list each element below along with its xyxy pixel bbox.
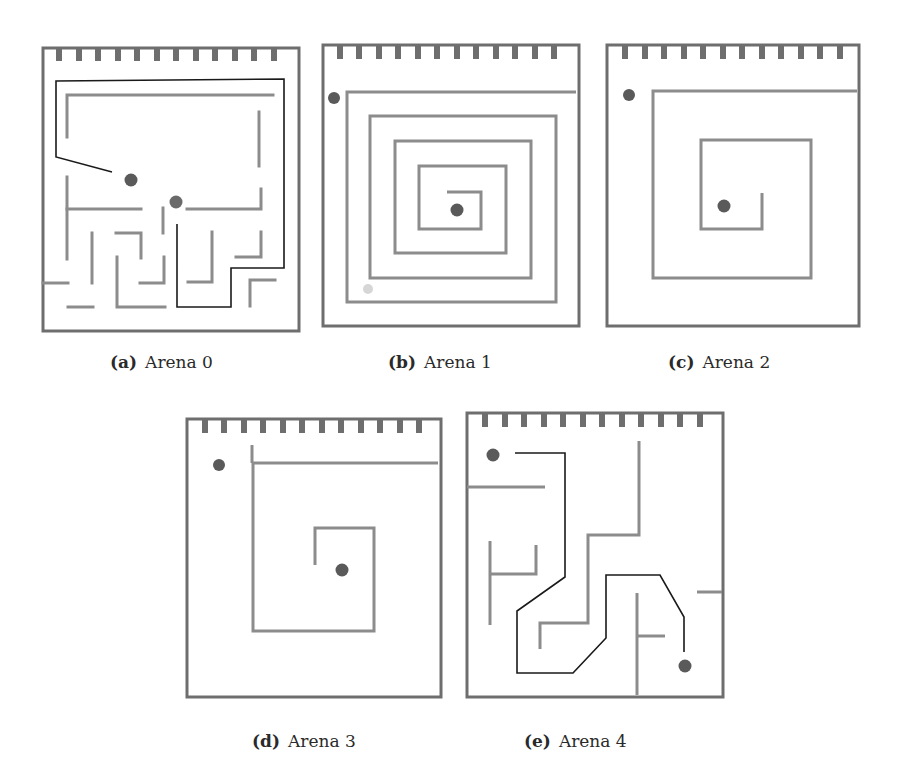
caption-label: Arena 0	[145, 352, 213, 372]
spiral-walls	[252, 445, 438, 631]
start-marker	[328, 92, 340, 104]
caption-arena-3: (d)Arena 3	[252, 731, 356, 751]
start-marker	[487, 449, 500, 462]
caption-arena-4: (e)Arena 4	[524, 731, 627, 751]
goal-marker	[336, 564, 349, 577]
caption-tag: (b)	[388, 352, 416, 372]
arena-1-maze	[300, 0, 600, 340]
start-marker	[213, 459, 225, 471]
arena-0-panel	[0, 0, 320, 340]
battlement-teeth	[482, 413, 703, 427]
caption-tag: (d)	[252, 731, 280, 751]
spiral-walls	[347, 92, 576, 302]
spiral-walls	[653, 91, 857, 278]
arena-0-maze	[0, 0, 320, 340]
arena-frame	[467, 413, 723, 697]
caption-label: Arena 4	[559, 731, 627, 751]
battlement-teeth	[202, 419, 422, 433]
maze-walls	[43, 95, 275, 307]
caption-tag: (a)	[110, 352, 137, 372]
arena-frame	[323, 45, 579, 326]
caption-arena-1: (b)Arena 1	[388, 352, 492, 372]
caption-tag: (c)	[668, 352, 694, 372]
goal-marker	[125, 174, 138, 187]
arena-4-panel	[455, 400, 745, 710]
caption-label: Arena 3	[288, 731, 356, 751]
arena-frame	[607, 45, 859, 326]
faint-marker	[363, 284, 373, 294]
arena-4-maze	[455, 400, 745, 710]
start-marker	[623, 89, 635, 101]
goal-marker	[451, 204, 464, 217]
trajectory-path	[56, 79, 284, 307]
arena-3-panel	[170, 400, 460, 710]
agent-marker	[170, 196, 183, 209]
caption-arena-2: (c)Arena 2	[668, 352, 770, 372]
caption-label: Arena 2	[702, 352, 770, 372]
arena-3-maze	[170, 400, 460, 710]
arena-2-maze	[590, 0, 904, 340]
maze-walls	[467, 441, 722, 695]
battlement-teeth	[56, 48, 277, 61]
arena-1-panel	[300, 0, 600, 340]
caption-arena-0: (a)Arena 0	[110, 352, 213, 372]
caption-tag: (e)	[524, 731, 551, 751]
battlement-teeth	[337, 45, 557, 59]
battlement-teeth	[622, 45, 843, 59]
goal-marker	[718, 200, 731, 213]
caption-label: Arena 1	[424, 352, 492, 372]
goal-marker	[679, 660, 692, 673]
arena-2-panel	[590, 0, 904, 340]
